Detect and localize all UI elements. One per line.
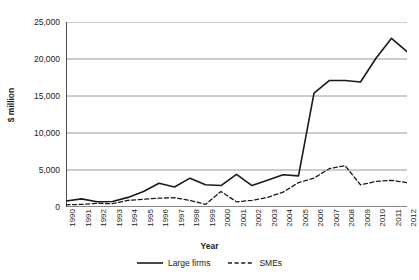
- x-tick-label: 2004: [286, 209, 294, 227]
- x-tick-label: 2002: [255, 209, 263, 227]
- x-tick-label: 2001: [240, 209, 248, 227]
- x-tick-label: 2003: [271, 209, 279, 227]
- x-axis-title: Year: [0, 241, 419, 251]
- x-tick-label: 2011: [395, 209, 403, 226]
- x-tick-label: 2006: [317, 209, 325, 227]
- y-tick-label: 25,000: [34, 18, 60, 27]
- y-tick-label: 20,000: [34, 55, 60, 64]
- legend-label: Large firms: [168, 258, 211, 268]
- x-tick-label: 1998: [193, 209, 201, 227]
- legend-line-swatch: [228, 259, 254, 267]
- series-line-smes: [66, 166, 407, 205]
- chart-legend: Large firmsSMEs: [0, 258, 419, 268]
- x-tick-label: 1997: [178, 209, 186, 227]
- x-tick-label: 2008: [348, 209, 356, 227]
- y-axis-title: $ million: [0, 0, 22, 210]
- y-axis-title-label: $ million: [6, 88, 16, 122]
- x-tick-label: 1990: [69, 209, 77, 227]
- x-tick-label: 1993: [116, 209, 124, 227]
- plot-svg: [66, 22, 407, 207]
- y-axis-tick-labels: 05,00010,00015,00020,00025,000: [22, 0, 64, 215]
- legend-label: SMEs: [259, 258, 282, 268]
- x-tick-label: 2009: [364, 209, 372, 227]
- y-tick-label: 5,000: [39, 166, 60, 175]
- legend-entry-smes[interactable]: SMEs: [228, 258, 282, 268]
- x-tick-label: 1996: [162, 209, 170, 227]
- x-tick-label: 2010: [379, 209, 387, 227]
- x-tick-label: 1991: [85, 209, 93, 227]
- series-lines: [66, 38, 407, 205]
- x-tick-label: 2012: [410, 209, 418, 227]
- line-chart: $ million 05,00010,00015,00020,00025,000…: [0, 0, 419, 280]
- legend-entry-large-firms[interactable]: Large firms: [137, 258, 211, 268]
- series-line-large-firms: [66, 38, 407, 202]
- x-tick-label: 2007: [333, 209, 341, 227]
- x-tick-label: 2000: [224, 209, 232, 227]
- y-tick-label: 10,000: [34, 129, 60, 138]
- x-tick-label: 1994: [131, 209, 139, 227]
- y-tick-label: 0: [55, 203, 60, 212]
- y-tick-label: 15,000: [34, 92, 60, 101]
- x-tick-label: 1995: [147, 209, 155, 227]
- x-axis-tick-labels: 1990199119921993199419951996199719981999…: [66, 209, 407, 243]
- legend-line-swatch: [137, 259, 163, 267]
- x-tick-label: 1999: [209, 209, 217, 227]
- x-tick-label: 2005: [302, 209, 310, 227]
- x-tick-label: 1992: [100, 209, 108, 227]
- plot-area: [66, 22, 407, 207]
